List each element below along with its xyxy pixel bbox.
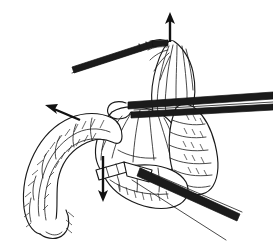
surgical-illustration-svg: Surgical line illustration: bowel and me… [0,0,273,252]
illustration-canvas: Surgical line illustration: bowel and me… [0,0,273,252]
